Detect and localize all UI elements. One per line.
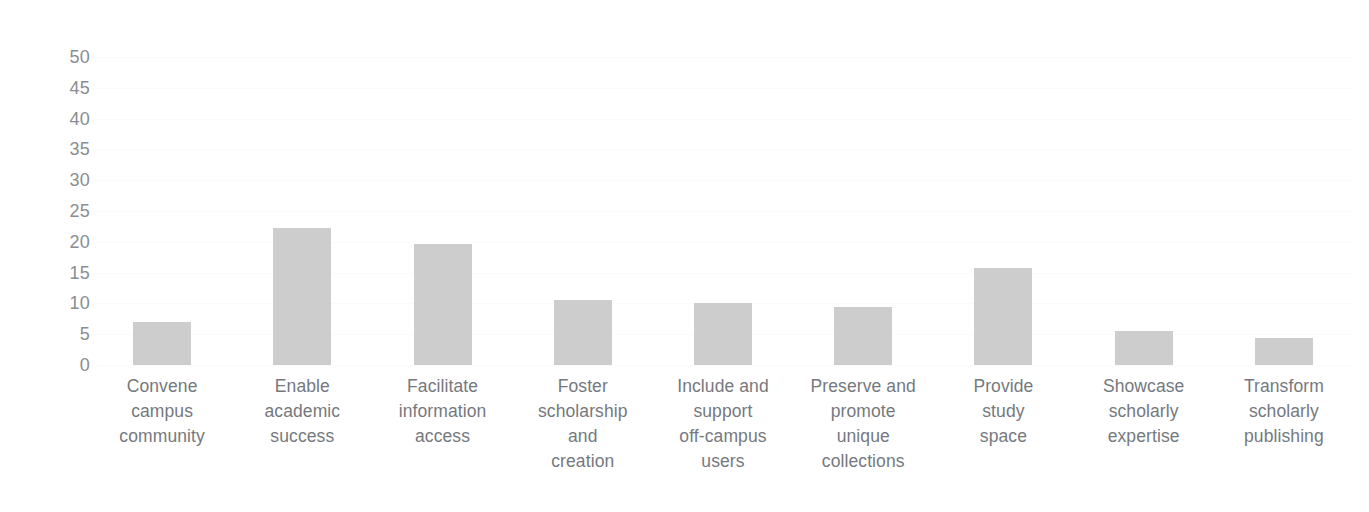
x-axis-labels: Convene campus communityEnable academic … (92, 374, 1354, 504)
y-tick-label: 30 (70, 171, 90, 189)
y-tick-label: 15 (70, 264, 90, 282)
x-tick-label: Enable academic success (232, 374, 372, 449)
x-tick-label: Include and support off-campus users (653, 374, 793, 474)
y-tick-label: 35 (70, 140, 90, 158)
x-tick-label: Foster scholarship and creation (513, 374, 653, 474)
gridline (92, 365, 1354, 366)
bar[interactable] (1115, 331, 1173, 365)
bar[interactable] (273, 228, 331, 365)
y-tick-label: 0 (80, 356, 90, 374)
bar[interactable] (834, 307, 892, 365)
x-tick-label: Showcase scholarly expertise (1074, 374, 1214, 449)
x-tick-label: Facilitate information access (372, 374, 512, 449)
x-tick-label: Convene campus community (92, 374, 232, 449)
bar[interactable] (1255, 338, 1313, 365)
x-tick-label: Preserve and promote unique collections (793, 374, 933, 474)
y-axis: 05101520253035404550 (52, 57, 90, 365)
y-tick-label: 45 (70, 79, 90, 97)
bar[interactable] (974, 268, 1032, 365)
x-tick-label: Transform scholarly publishing (1214, 374, 1354, 449)
y-tick-label: 25 (70, 202, 90, 220)
y-tick-label: 10 (70, 294, 90, 312)
y-tick-label: 40 (70, 110, 90, 128)
y-tick-label: 50 (70, 48, 90, 66)
bar[interactable] (414, 244, 472, 365)
bar[interactable] (694, 303, 752, 365)
y-tick-label: 5 (80, 325, 90, 343)
bar[interactable] (554, 300, 612, 365)
bar[interactable] (133, 322, 191, 365)
bar-chart: 05101520253035404550 Convene campus comm… (0, 0, 1369, 512)
y-tick-label: 20 (70, 233, 90, 251)
bars-layer (92, 57, 1354, 365)
x-tick-label: Provide study space (933, 374, 1073, 449)
